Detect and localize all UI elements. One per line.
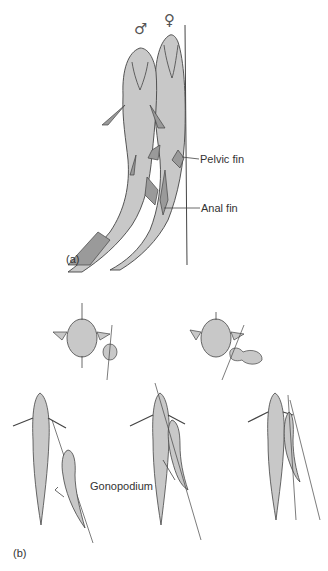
gonopodium-label: Gonopodium — [90, 480, 153, 492]
panel-a-illustration — [68, 25, 200, 272]
female-symbol: ♀ — [164, 11, 175, 29]
female-top-view-2 — [153, 393, 170, 525]
female-top-view-1 — [33, 393, 50, 525]
fish-mating-diagram — [0, 0, 328, 571]
male-top-view-1 — [62, 450, 85, 528]
pelvic-fin-label: Pelvic fin — [200, 153, 244, 165]
female-top-view-3 — [268, 393, 285, 520]
female-front-view — [201, 319, 231, 357]
male-symbol: ♂ — [134, 20, 147, 38]
panel-a-label: (a) — [66, 253, 79, 265]
male-pectoral-fin-left — [102, 105, 125, 125]
movement-arrow — [55, 487, 64, 497]
panel-b-front-views — [53, 303, 262, 380]
male-top-view-3 — [284, 412, 300, 482]
panel-b-top-views — [13, 383, 320, 543]
anal-fin-label: Anal fin — [201, 202, 238, 214]
male-top-view-2 — [168, 420, 188, 490]
reference-line — [185, 25, 187, 265]
male-front-view — [67, 319, 97, 357]
panel-b-label: (b) — [13, 547, 26, 559]
